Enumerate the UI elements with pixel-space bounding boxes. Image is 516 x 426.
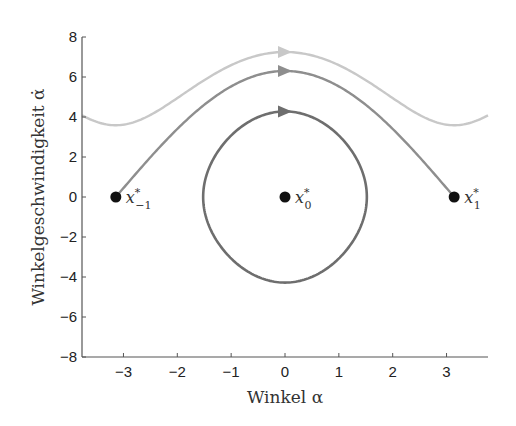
x-tick-label: 1 <box>335 363 343 380</box>
trajectories <box>82 46 488 283</box>
y-tick-label: 2 <box>69 148 77 165</box>
y-tick-label: −8 <box>60 348 77 365</box>
x-tick-label: 2 <box>389 363 397 380</box>
y-tick-label: 4 <box>69 108 77 125</box>
equilibrium-dot <box>110 192 121 203</box>
x-tick-label: 3 <box>442 363 450 380</box>
equilibrium-points: x*−1x*0x*1 <box>110 186 480 212</box>
direction-arrow-icon <box>278 46 292 58</box>
y-tick-label: 0 <box>69 188 77 205</box>
y-tick-label: −6 <box>60 308 77 325</box>
x-tick-label: 0 <box>281 363 289 380</box>
x-tick-label: −2 <box>169 363 186 380</box>
x-tick-label: −3 <box>115 363 132 380</box>
direction-arrow-icon <box>278 105 292 117</box>
equilibrium-label: x*−1 <box>126 186 152 212</box>
equilibrium-label: x*0 <box>295 186 312 212</box>
phase-portrait-chart: x*−1x*0x*1 −3−2−10123−8−6−4−202468 Winke… <box>0 0 516 426</box>
y-tick-label: 8 <box>69 28 77 45</box>
axes: −3−2−10123−8−6−4−202468 <box>60 28 488 380</box>
y-axis-title: Winkelgeschwindigkeit α̇ <box>28 88 48 306</box>
direction-arrow-icon <box>278 65 292 77</box>
trajectory-1 <box>116 71 454 197</box>
y-tick-label: −4 <box>60 268 77 285</box>
y-tick-label: 6 <box>69 68 77 85</box>
equilibrium-label: x*1 <box>464 186 481 212</box>
equilibrium-dot <box>449 192 460 203</box>
y-tick-label: −2 <box>60 228 77 245</box>
equilibrium-dot <box>280 192 291 203</box>
x-axis-title: Winkel α <box>247 387 324 407</box>
x-tick-label: −1 <box>223 363 240 380</box>
